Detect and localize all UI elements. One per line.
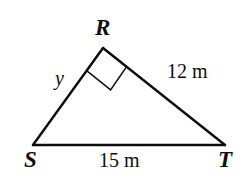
right-angle-square-icon [87, 48, 127, 90]
side-label-SR: y [55, 68, 64, 88]
vertex-label-S: S [24, 148, 37, 171]
side-label-RT: 12 m [167, 61, 208, 81]
side-label-ST: 15 m [99, 150, 140, 170]
geometry-figure: R S T y 12 m 15 m [0, 0, 250, 185]
vertex-label-T: T [218, 148, 232, 171]
vertex-label-R: R [95, 16, 110, 39]
